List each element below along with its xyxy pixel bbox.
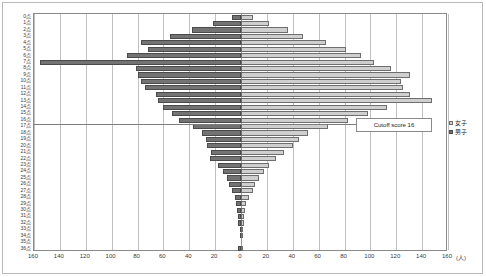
bar-male (218, 163, 241, 168)
bar-female (241, 92, 410, 97)
bar-male (229, 182, 241, 187)
bar-female (241, 169, 264, 174)
x-axis-tick-label: 40 (185, 253, 192, 259)
bar-row (34, 246, 446, 252)
bar-male (148, 47, 241, 52)
bar-female (241, 227, 243, 232)
bar-female (241, 233, 243, 238)
x-axis-tick-label: 40 (288, 253, 295, 259)
bar-female (241, 34, 303, 39)
x-axis-tick-label: 60 (314, 253, 321, 259)
bar-male (179, 118, 241, 123)
bar-female (241, 156, 276, 161)
x-axis-unit-label: (人) (456, 253, 466, 262)
bar-male (211, 150, 241, 155)
bar-female (241, 40, 326, 45)
bar-female (241, 214, 244, 219)
legend-swatch-male-icon (449, 130, 453, 134)
bar-male (138, 72, 242, 77)
plot-area (33, 13, 447, 251)
bar-male (141, 79, 241, 84)
y-axis-tick-label: 36点 (20, 245, 31, 251)
bar-female (241, 163, 269, 168)
bar-female (241, 182, 255, 187)
bar-male (156, 92, 241, 97)
bar-female (241, 105, 387, 110)
bar-female (241, 98, 432, 103)
bar-female (241, 85, 403, 90)
bar-male (136, 66, 241, 71)
legend-item-female: 女子 (449, 118, 482, 127)
bar-female (241, 208, 245, 213)
bar-male (206, 137, 241, 142)
bar-female (241, 220, 244, 225)
x-axis-tick-label: 120 (80, 253, 90, 259)
bar-female (241, 79, 401, 84)
x-axis-tick-label: 60 (159, 253, 166, 259)
bar-female (241, 72, 410, 77)
x-axis-tick-label: 140 (54, 253, 64, 259)
bar-female (241, 118, 348, 123)
bar-female (241, 188, 253, 193)
legend-label-male: 男子 (455, 127, 467, 136)
bar-female (241, 201, 246, 206)
bar-female (241, 21, 269, 26)
legend-swatch-female-icon (449, 121, 453, 125)
bar-female (241, 130, 308, 135)
bar-male (172, 111, 241, 116)
bar-male (141, 40, 241, 45)
bar-male (145, 85, 241, 90)
cutoff-callout-box: Cutoff score 16 (356, 118, 432, 132)
chart-screenshot: 0点1点2点3点4点5点6点7点8点9点10点11点12点13点14点15点16… (0, 0, 486, 277)
bar-female (241, 111, 368, 116)
x-axis-tick-label: 140 (416, 253, 426, 259)
bar-male (213, 21, 241, 26)
bar-male (207, 143, 241, 148)
bar-male (158, 98, 241, 103)
bar-male (170, 34, 241, 39)
x-axis-tick-label: 100 (106, 253, 116, 259)
bar-female (241, 53, 361, 58)
bar-female (241, 60, 374, 65)
legend-label-female: 女子 (455, 118, 467, 127)
x-axis-tick-label: 100 (364, 253, 374, 259)
bar-male (223, 169, 241, 174)
bar-female (241, 47, 346, 52)
y-axis-labels: 0点1点2点3点4点5点6点7点8点9点10点11点12点13点14点15点16… (3, 13, 32, 251)
bar-male (227, 175, 241, 180)
x-axis-tick-label: 160 (442, 253, 452, 259)
x-axis-tick-label: 160 (28, 253, 38, 259)
bar-female (241, 27, 288, 32)
bar-female (241, 150, 284, 155)
bar-male (232, 188, 241, 193)
x-axis-tick-label: 0 (238, 253, 241, 259)
bar-female (241, 137, 299, 142)
bar-male (40, 60, 241, 65)
bar-female (241, 175, 259, 180)
cutoff-callout-label: Cutoff score 16 (374, 122, 415, 128)
bar-female (241, 195, 249, 200)
bar-male (210, 156, 241, 161)
cutoff-leader-line (34, 124, 356, 125)
bar-female (241, 246, 243, 251)
legend-item-male: 男子 (449, 127, 482, 136)
bar-male (232, 15, 241, 20)
x-axis-tick-label: 120 (390, 253, 400, 259)
bar-female (241, 66, 391, 71)
bar-male (202, 130, 241, 135)
bar-male (192, 27, 241, 32)
chart-legend: 女子 男子 (449, 118, 482, 136)
bar-male (127, 53, 241, 58)
x-axis-tick-label: 20 (211, 253, 218, 259)
bar-male (163, 105, 241, 110)
x-axis-tick-label: 80 (133, 253, 140, 259)
x-axis-tick-label: 80 (340, 253, 347, 259)
bar-female (241, 15, 253, 20)
x-axis-tick-label: 20 (263, 253, 270, 259)
x-axis-labels: (人) 160140120100806040200204060801001201… (0, 253, 486, 267)
bar-female (241, 143, 293, 148)
bar-rows (34, 14, 446, 250)
